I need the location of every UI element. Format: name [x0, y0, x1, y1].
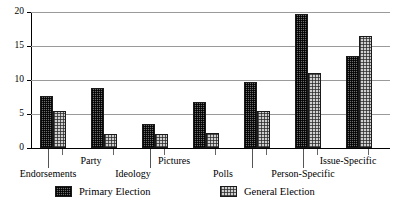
x-tick-6: [317, 149, 318, 155]
bar-general-polls: [257, 111, 270, 148]
bar-primary-party: [91, 88, 104, 148]
y-axis-label-0: 0: [2, 143, 24, 153]
bar-primary-endorsements: [40, 96, 53, 148]
x-label-polls: Polls: [213, 168, 233, 179]
bar-chart: 20 15 10 5 0: [0, 0, 408, 213]
y-axis-label-15: 15: [2, 41, 24, 51]
y-axis-label-5: 5: [2, 109, 24, 119]
x-tick-5: [266, 149, 267, 155]
leader-endorsements: [48, 149, 49, 168]
bar-primary-issue-specific: [346, 56, 359, 148]
y-axis-label-20: 20: [2, 7, 24, 17]
legend-label-primary: Primary Election: [79, 186, 150, 197]
legend-entry-general: General Election: [220, 186, 315, 197]
leader-polls: [252, 149, 253, 168]
x-label-party: Party: [80, 155, 101, 166]
bar-primary-person-specific: [295, 14, 308, 148]
x-label-ideology: Ideology: [115, 168, 151, 179]
x-label-endorsements: Endorsements: [20, 168, 77, 179]
leader-ideology: [150, 149, 151, 168]
bar-general-party: [104, 134, 117, 148]
legend-entry-primary: Primary Election: [55, 186, 150, 197]
bar-primary-pictures: [193, 102, 206, 148]
bar-primary-ideology: [142, 124, 155, 148]
x-label-issue-specific: Issue-Specific: [320, 155, 377, 166]
bars-layer: [31, 12, 390, 148]
leader-person-specific: [303, 149, 304, 168]
y-axis-label-10: 10: [2, 75, 24, 85]
legend-swatch-primary-icon: [55, 186, 72, 197]
x-tick-4: [215, 149, 216, 155]
x-tick-2: [113, 149, 114, 155]
bar-general-person-specific: [308, 73, 321, 148]
bar-general-ideology: [155, 134, 168, 148]
bar-general-pictures: [206, 133, 219, 148]
legend-label-general: General Election: [244, 186, 315, 197]
chart-legend: Primary Election General Election: [0, 186, 408, 208]
x-axis-line: [31, 148, 390, 149]
legend-swatch-general-icon: [220, 186, 237, 197]
x-label-pictures: Pictures: [158, 155, 190, 166]
bar-general-issue-specific: [359, 36, 372, 148]
bar-general-endorsements: [53, 111, 66, 148]
x-tick-1: [62, 149, 63, 155]
x-label-person-specific: Person-Specific: [271, 168, 334, 179]
bar-primary-polls: [244, 82, 257, 148]
